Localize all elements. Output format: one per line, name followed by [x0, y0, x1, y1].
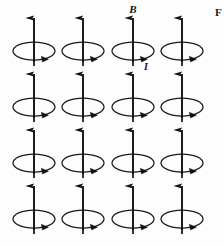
dipole-array-diagram: B I F — [0, 0, 224, 246]
physics-figure: B I F — [0, 0, 224, 246]
edge-partial-caption-label: F — [215, 6, 222, 18]
magnetic-field-label: B — [128, 3, 136, 15]
